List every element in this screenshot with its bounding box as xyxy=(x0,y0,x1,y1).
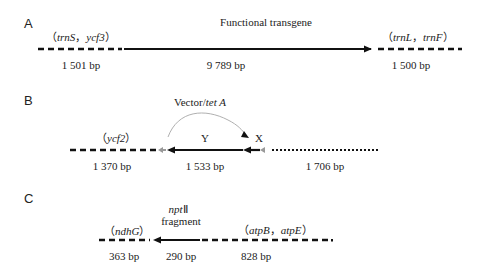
gene-atpE: atpE xyxy=(281,224,302,236)
panel-c-left-flank-label: （ndhG） xyxy=(104,222,150,238)
panel-b-vector-label: Vector/tet A xyxy=(174,96,226,108)
gray-site-marker-left xyxy=(158,147,163,153)
gene-tetA: tet A xyxy=(206,96,226,108)
arc-arrowhead xyxy=(241,131,249,138)
transgene-diagram: A （trnS，ycf3） Functional transgene （trnL… xyxy=(0,0,482,279)
panel-c-fragment-label: fragment xyxy=(161,215,201,227)
panel-b-letter: B xyxy=(24,93,33,108)
panel-b-marker-x: X xyxy=(255,132,263,144)
panel-a-letter: A xyxy=(24,16,33,31)
gene-ndhG: ndhG xyxy=(115,225,139,237)
panel-c-size-middle: 290 bp xyxy=(166,250,196,262)
panel-b-left-flank-label: （ycf2） xyxy=(96,129,136,145)
panel-a-right-flank-label: （trnL，trnF） xyxy=(382,28,454,44)
gene-atpB: atpB xyxy=(249,224,270,236)
panel-a-size-left: 1 501 bp xyxy=(62,59,101,71)
panel-c-size-right: 828 bp xyxy=(241,250,271,262)
panel-b-marker-y: Y xyxy=(201,132,209,144)
panel-c-size-left: 363 bp xyxy=(109,250,139,262)
gene-trnF: trnF xyxy=(423,31,443,43)
gene-ycf2: ycf2 xyxy=(107,132,125,144)
panel-c-letter: C xyxy=(24,191,33,206)
gene-trnS: trnS xyxy=(57,31,75,43)
panel-a-left-flank-label: （trnS，ycf3） xyxy=(46,28,116,44)
panel-b-size-middle: 1 533 bp xyxy=(186,160,225,172)
panel-a-graphics xyxy=(38,46,462,53)
gene-trnL: trnL xyxy=(393,31,412,43)
gray-site-marker-right xyxy=(260,147,265,153)
panel-a-insert-label: Functional transgene xyxy=(220,16,312,28)
panel-b-size-right: 1 706 bp xyxy=(306,160,345,172)
gene-npt: npt xyxy=(168,203,182,215)
panel-a-size-insert: 9 789 bp xyxy=(207,59,246,71)
panel-c-right-flank-label: （atpB，atpE） xyxy=(238,221,313,237)
panel-b-size-left: 1 370 bp xyxy=(93,160,132,172)
panel-a-size-right: 1 500 bp xyxy=(392,59,431,71)
gene-ycf3: ycf3 xyxy=(86,31,104,43)
